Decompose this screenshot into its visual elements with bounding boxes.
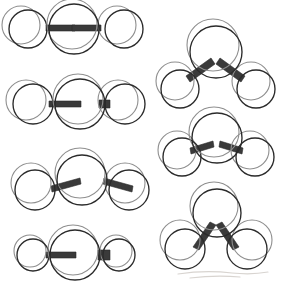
- bond-group: [49, 100, 110, 108]
- molecular-models-figure: Molecular space-filling models Linear tr…: [0, 0, 289, 285]
- models-canvas: [0, 0, 289, 285]
- bond-left: [46, 25, 75, 31]
- bond-group: [46, 25, 101, 31]
